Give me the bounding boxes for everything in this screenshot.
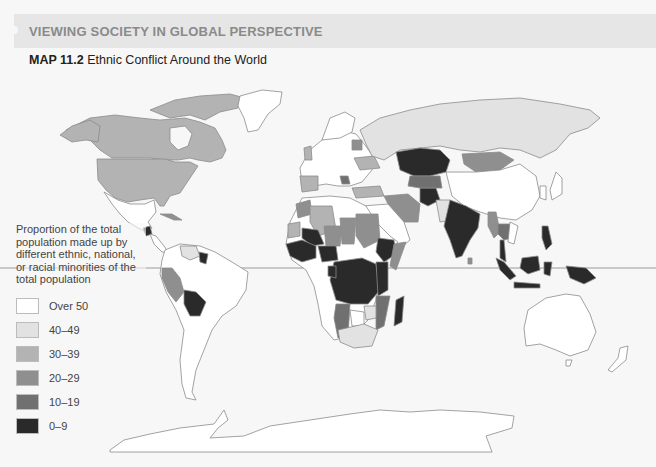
legend-item-20-29: 20–29: [16, 366, 146, 390]
kazakhstan: [396, 148, 450, 176]
belarus-baltic: [352, 140, 362, 150]
legend: Proportion of the total population made …: [16, 223, 146, 438]
legend-item-40-49: 40–49: [16, 318, 146, 342]
legend-label: 10–19: [49, 396, 80, 408]
antarctica: [110, 410, 514, 452]
japan: [550, 172, 562, 200]
cuba: [160, 214, 182, 220]
java: [514, 282, 540, 288]
central-america: [150, 234, 168, 252]
botswana: [350, 310, 364, 326]
nigeria: [318, 246, 338, 262]
legend-label: 0–9: [49, 420, 67, 432]
turkey: [352, 186, 384, 198]
legend-swatch: [16, 394, 39, 410]
tasmania: [566, 360, 572, 366]
canada-arctic-islands: [150, 94, 245, 120]
legend-swatch: [16, 418, 39, 434]
iberia: [300, 176, 318, 192]
legend-label: 20–29: [49, 372, 80, 384]
legend-swatch: [16, 370, 39, 386]
central-asia: [408, 176, 442, 188]
guyana: [199, 252, 208, 264]
western-sahara: [288, 222, 300, 238]
legend-label: 40–49: [49, 324, 80, 336]
legend-label: 30–39: [49, 348, 80, 360]
legend-swatch: [16, 298, 39, 314]
sri-lanka: [468, 258, 472, 264]
russia: [360, 98, 600, 160]
chad: [340, 218, 356, 244]
vietnam: [508, 222, 518, 244]
borneo: [520, 256, 540, 274]
sulawesi: [544, 262, 552, 276]
legend-swatch: [16, 346, 39, 362]
legend-item-0-9: 0–9: [16, 414, 146, 438]
legend-items: Over 50 40–49 30–39 20–29 10–19 0–9: [16, 294, 146, 438]
gabon: [328, 266, 336, 278]
south-america: [160, 244, 248, 400]
australia: [524, 294, 596, 356]
uk: [304, 146, 312, 160]
mozambique: [376, 296, 390, 330]
legend-swatch: [16, 322, 39, 338]
new-guinea: [566, 266, 596, 284]
legend-item-10-19: 10–19: [16, 390, 146, 414]
greenland: [238, 90, 282, 132]
niger: [324, 226, 342, 246]
philippines: [542, 226, 552, 250]
legend-item-30-39: 30–39: [16, 342, 146, 366]
malay-peninsula: [500, 240, 506, 262]
korea: [540, 186, 546, 200]
east-africa: [376, 262, 388, 296]
madagascar: [394, 296, 404, 326]
new-zealand: [608, 346, 628, 372]
legend-title: Proportion of the total population made …: [16, 223, 146, 286]
legend-label: Over 50: [49, 300, 88, 312]
central-africa: [330, 258, 380, 304]
zimbabwe: [364, 306, 376, 320]
balkans: [340, 176, 350, 184]
legend-item-over-50: Over 50: [16, 294, 146, 318]
alaska: [60, 120, 100, 142]
